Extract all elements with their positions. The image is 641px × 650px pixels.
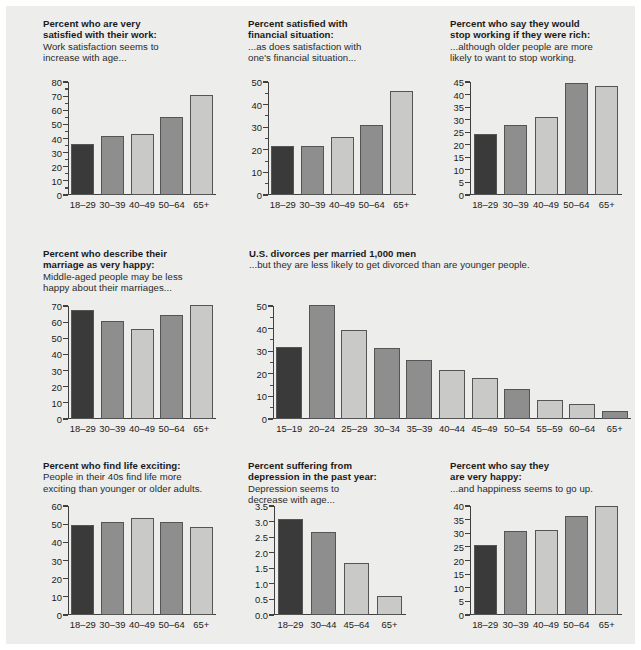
y-tick-label: 25 bbox=[454, 127, 464, 138]
y-tick-major bbox=[263, 127, 268, 128]
bar bbox=[535, 117, 558, 195]
x-tick-label: 30–39 bbox=[99, 199, 125, 210]
bar bbox=[504, 125, 527, 195]
y-tick-major bbox=[63, 402, 68, 403]
y-tick-minor bbox=[265, 115, 268, 116]
y-tick-label: 3.5 bbox=[255, 501, 268, 512]
x-tick-label: 65+ bbox=[607, 423, 623, 434]
y-tick-label: 1.5 bbox=[255, 563, 268, 574]
x-tick-label: 40–49 bbox=[533, 619, 559, 630]
bar bbox=[569, 404, 595, 419]
bar bbox=[190, 527, 213, 615]
y-tick-major bbox=[268, 373, 273, 374]
y-tick-major bbox=[465, 614, 470, 615]
x-tick-label: 25–29 bbox=[341, 423, 367, 434]
y-tick-major bbox=[269, 552, 274, 553]
bar bbox=[565, 83, 588, 195]
y-tick-label: 10 bbox=[52, 591, 62, 602]
y-tick-major bbox=[63, 152, 68, 153]
y-tick-major bbox=[263, 104, 268, 105]
y-tick-major bbox=[63, 505, 68, 506]
y-tick-minor bbox=[65, 131, 68, 132]
x-tick-label: 30–39 bbox=[503, 199, 529, 210]
y-tick-label: 30 bbox=[252, 122, 262, 133]
y-tick-label: 10 bbox=[52, 397, 62, 408]
y-tick-major bbox=[63, 354, 68, 355]
chart-title: Percent satisfied with financial situati… bbox=[248, 18, 423, 41]
y-tick-label: 0 bbox=[57, 190, 62, 201]
x-tick-label: 60–64 bbox=[569, 423, 595, 434]
y-tick-major bbox=[269, 568, 274, 569]
chart-panel-us-divorces: U.S. divorces per married 1,000 men...bu… bbox=[228, 244, 634, 449]
y-tick-label: 30 bbox=[52, 147, 62, 158]
y-axis-line bbox=[470, 506, 471, 615]
y-tick-minor bbox=[265, 161, 268, 162]
chart-subtitle: ...as does satisfaction with one's finan… bbox=[248, 41, 423, 64]
y-tick-minor bbox=[270, 362, 273, 363]
y-tick-label: 50 bbox=[52, 519, 62, 530]
x-tick-label: 30–39 bbox=[299, 199, 325, 210]
y-tick-label: 10 bbox=[52, 175, 62, 186]
y-tick-major bbox=[263, 81, 268, 82]
y-tick-label: 70 bbox=[52, 91, 62, 102]
y-tick-major bbox=[465, 587, 470, 588]
x-tick-label: 50–64 bbox=[159, 199, 185, 210]
x-tick-label: 30–39 bbox=[99, 619, 125, 630]
bar bbox=[131, 134, 154, 195]
bar bbox=[377, 596, 402, 615]
y-axis-line bbox=[268, 82, 269, 195]
x-tick-label: 40–44 bbox=[439, 423, 465, 434]
y-tick-major bbox=[465, 119, 470, 120]
bar bbox=[360, 125, 383, 195]
y-tick-label: 15 bbox=[454, 152, 464, 163]
plot-area: 0.00.51.01.52.02.53.03.518–2930–4445–646… bbox=[274, 506, 406, 615]
y-tick-major bbox=[63, 578, 68, 579]
bar bbox=[71, 310, 94, 419]
y-axis-line bbox=[68, 82, 69, 195]
bar bbox=[309, 305, 335, 419]
y-tick-label: 70 bbox=[52, 301, 62, 312]
chart-title: Percent who say they would stop working … bbox=[450, 18, 634, 41]
y-tick-label: 15 bbox=[454, 569, 464, 580]
chart-panel-work-satisfaction: Percent who are very satisfied with thei… bbox=[22, 10, 217, 215]
y-tick-major bbox=[465, 107, 470, 108]
x-tick-label: 65+ bbox=[193, 619, 209, 630]
x-tick-label: 65+ bbox=[393, 199, 409, 210]
chart-subtitle: ...but they are less likely to get divor… bbox=[249, 259, 634, 270]
y-tick-major bbox=[465, 601, 470, 602]
y-tick-label: 20 bbox=[52, 573, 62, 584]
chart-header: U.S. divorces per married 1,000 men...bu… bbox=[249, 248, 634, 271]
y-tick-label: 40 bbox=[52, 537, 62, 548]
y-tick-minor bbox=[270, 339, 273, 340]
bar bbox=[160, 522, 183, 615]
y-tick-major bbox=[465, 169, 470, 170]
chart-header: Percent who describe their marriage as v… bbox=[43, 248, 217, 294]
x-tick-label: 45–64 bbox=[343, 619, 369, 630]
y-tick-label: 30 bbox=[52, 555, 62, 566]
y-tick-major bbox=[63, 370, 68, 371]
y-tick-label: 0 bbox=[459, 610, 464, 621]
y-tick-label: 0 bbox=[262, 414, 267, 425]
x-tick-label: 50–64 bbox=[159, 423, 185, 434]
y-tick-major bbox=[465, 560, 470, 561]
y-tick-label: 80 bbox=[52, 77, 62, 88]
y-tick-major bbox=[269, 599, 274, 600]
bar bbox=[504, 389, 530, 420]
y-tick-major bbox=[63, 81, 68, 82]
chart-subtitle: Work satisfaction seems to increase with… bbox=[43, 41, 217, 64]
y-tick-major bbox=[63, 418, 68, 419]
y-axis-line bbox=[68, 306, 69, 419]
chart-title: Percent who describe their marriage as v… bbox=[43, 248, 217, 271]
y-tick-label: 30 bbox=[454, 528, 464, 539]
y-tick-major bbox=[269, 537, 274, 538]
x-tick-label: 30–39 bbox=[99, 423, 125, 434]
x-tick-label: 30–44 bbox=[310, 619, 336, 630]
x-tick-label: 55–59 bbox=[537, 423, 563, 434]
y-tick-label: 10 bbox=[454, 164, 464, 175]
x-tick-label: 15–19 bbox=[276, 423, 302, 434]
y-tick-major bbox=[269, 521, 274, 522]
y-tick-major bbox=[63, 524, 68, 525]
y-tick-label: 40 bbox=[52, 349, 62, 360]
bar bbox=[271, 146, 294, 195]
bar bbox=[71, 525, 94, 615]
